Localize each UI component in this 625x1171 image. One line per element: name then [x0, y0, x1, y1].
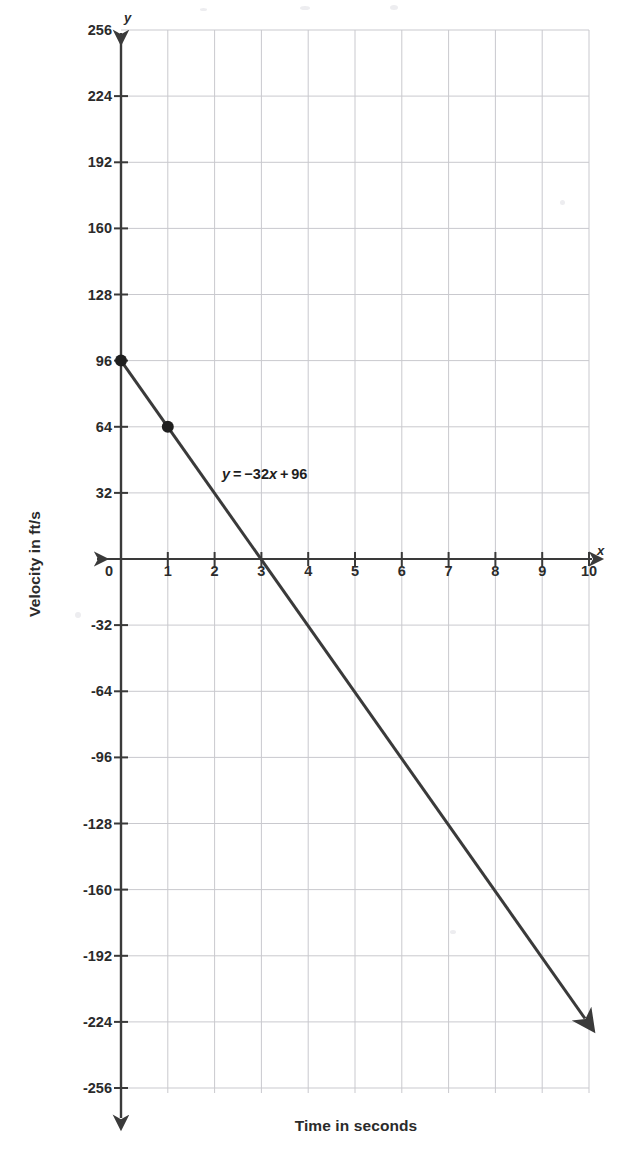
- x-tick-5: 5: [351, 563, 359, 579]
- scan-artifact: [560, 200, 565, 205]
- y-tick-label: -96: [91, 749, 112, 765]
- y-tick-label: 224: [88, 88, 112, 104]
- y-tick-label: -64: [91, 683, 112, 699]
- y-tick-label: 128: [88, 287, 112, 303]
- data-line-series: [121, 361, 585, 1019]
- scan-artifact: [75, 612, 81, 618]
- scan-artifact: [300, 6, 310, 10]
- x-tick-1: 1: [164, 563, 172, 579]
- x-tick-4: 4: [304, 563, 312, 579]
- y-axis-title: Velocity in ft/s: [26, 484, 44, 644]
- y-tick-label: 96: [96, 353, 112, 369]
- y-axis-variable-label: y: [124, 10, 131, 25]
- x-axis-variable-label: x: [597, 543, 604, 558]
- y-tick-label: 32: [96, 485, 112, 501]
- scan-artifact: [200, 8, 207, 11]
- x-tick-3: 3: [257, 563, 265, 579]
- y-tick-label: -160: [83, 882, 112, 898]
- y-tick-label: 64: [96, 419, 112, 435]
- equation-y-term: y: [222, 466, 230, 482]
- y-tick-label: -128: [83, 816, 112, 832]
- x-tick-9: 9: [538, 563, 546, 579]
- y-tick-label: -32: [91, 617, 112, 633]
- x-axis-title: Time in seconds: [121, 1117, 591, 1135]
- plot-area: [0, 0, 625, 1171]
- x-tick-6: 6: [398, 563, 406, 579]
- x-tick-7: 7: [445, 563, 453, 579]
- equation-operator: = −32: [230, 466, 269, 482]
- y-tick-label: 160: [88, 220, 112, 236]
- x-tick-10: 10: [581, 563, 597, 579]
- y-tick-label: 192: [88, 154, 112, 170]
- x-tick-2: 2: [211, 563, 219, 579]
- equation-annotation: y = −32x + 96: [222, 466, 307, 482]
- data-point-marker: [162, 421, 174, 433]
- equation-x-term: x: [269, 466, 277, 482]
- equation-constant: + 96: [277, 466, 307, 482]
- x-tick-8: 8: [491, 563, 499, 579]
- y-tick-label: -192: [83, 948, 112, 964]
- y-tick-label: 256: [88, 22, 112, 38]
- data-point-marker: [115, 355, 127, 367]
- chart-canvas: 256 224 192 160 128 96 64 32 -32 -64 -96…: [0, 0, 625, 1171]
- x-tick-0: 0: [105, 563, 113, 579]
- scan-artifact: [390, 5, 398, 10]
- scan-artifact: [450, 930, 456, 934]
- y-tick-label: -256: [83, 1080, 112, 1096]
- y-tick-label: -224: [83, 1014, 112, 1030]
